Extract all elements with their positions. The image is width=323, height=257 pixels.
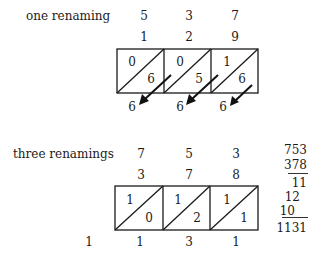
addend-1: 753	[284, 144, 307, 156]
total-sum: 1131	[276, 222, 307, 234]
cell-lower-digit: 6	[147, 73, 155, 85]
result-digit: 6	[219, 101, 227, 113]
cell-lower-digit: 6	[238, 73, 246, 85]
cell-lower-digit: 0	[145, 212, 153, 224]
cell-upper-digit: 0	[128, 56, 136, 68]
top-digit: 3	[232, 148, 240, 160]
cell-upper-digit: 0	[176, 56, 184, 68]
lattice-grid-three	[115, 186, 258, 230]
result-digit: 1	[136, 236, 144, 248]
cell-upper-digit: 1	[223, 56, 231, 68]
total-rule	[282, 217, 308, 218]
result-digit: 6	[176, 101, 184, 113]
cell-lower-digit: 5	[195, 73, 203, 85]
cell-upper-digit: 1	[174, 194, 182, 206]
second-digit: 3	[137, 169, 145, 181]
section-label-three-renamings: three renamings	[13, 148, 114, 160]
top-digit: 5	[185, 148, 193, 160]
second-digit: 7	[185, 169, 193, 181]
sum-rule	[288, 173, 308, 174]
carry-digit: 1	[85, 236, 93, 248]
second-digit: 8	[232, 169, 240, 181]
result-digit: 1	[232, 236, 240, 248]
lattice-grid-lines	[0, 0, 323, 257]
cell-lower-digit: 2	[193, 212, 201, 224]
top-digit: 7	[137, 148, 145, 160]
lattice-grid-one	[117, 49, 258, 93]
partial-sum: 10	[280, 205, 295, 217]
partial-sum: 12	[285, 191, 300, 203]
partial-sum: 11	[292, 177, 307, 189]
result-digit: 3	[185, 236, 193, 248]
addend-2: 378	[284, 159, 307, 171]
cell-upper-digit: 1	[126, 194, 134, 206]
result-digit: 6	[128, 101, 136, 113]
cell-upper-digit: 1	[223, 194, 231, 206]
cell-lower-digit: 1	[240, 212, 248, 224]
